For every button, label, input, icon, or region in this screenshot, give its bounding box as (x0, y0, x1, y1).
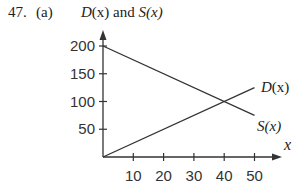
y-tick-label: 150 (70, 65, 95, 82)
y-tick-label: 200 (70, 37, 95, 54)
y-tick-label: 50 (78, 120, 95, 137)
y-axis-title: D(x) and S(x) (80, 4, 163, 21)
x-tick-label: 20 (155, 167, 172, 184)
title-x1: (x) (92, 4, 110, 21)
title-d: D (80, 4, 92, 20)
x-tick-label: 10 (125, 167, 142, 184)
d-line-label: D(x) (260, 79, 289, 96)
title-x2: (x) (146, 4, 163, 21)
x-tick-label: 50 (246, 167, 263, 184)
s-line-label: S(x) (257, 118, 281, 135)
series-line-s (103, 46, 255, 115)
x-tick-label: 40 (216, 167, 233, 184)
problem-part: (a) (36, 4, 53, 21)
x-axis-label: x (283, 136, 291, 153)
y-tick-label: 100 (70, 93, 95, 110)
chart: 47. (a) D(x) and S(x) 50100150200 102030… (0, 0, 304, 192)
series-lines (103, 46, 255, 157)
x-tick-label: 30 (186, 167, 203, 184)
x-axis-arrow-icon (272, 154, 282, 161)
title-and: and (109, 4, 138, 20)
y-ticks: 50100150200 (70, 37, 107, 137)
problem-number: 47. (8, 4, 27, 20)
y-axis-arrow-icon (100, 30, 107, 40)
series-line-d (103, 88, 255, 157)
